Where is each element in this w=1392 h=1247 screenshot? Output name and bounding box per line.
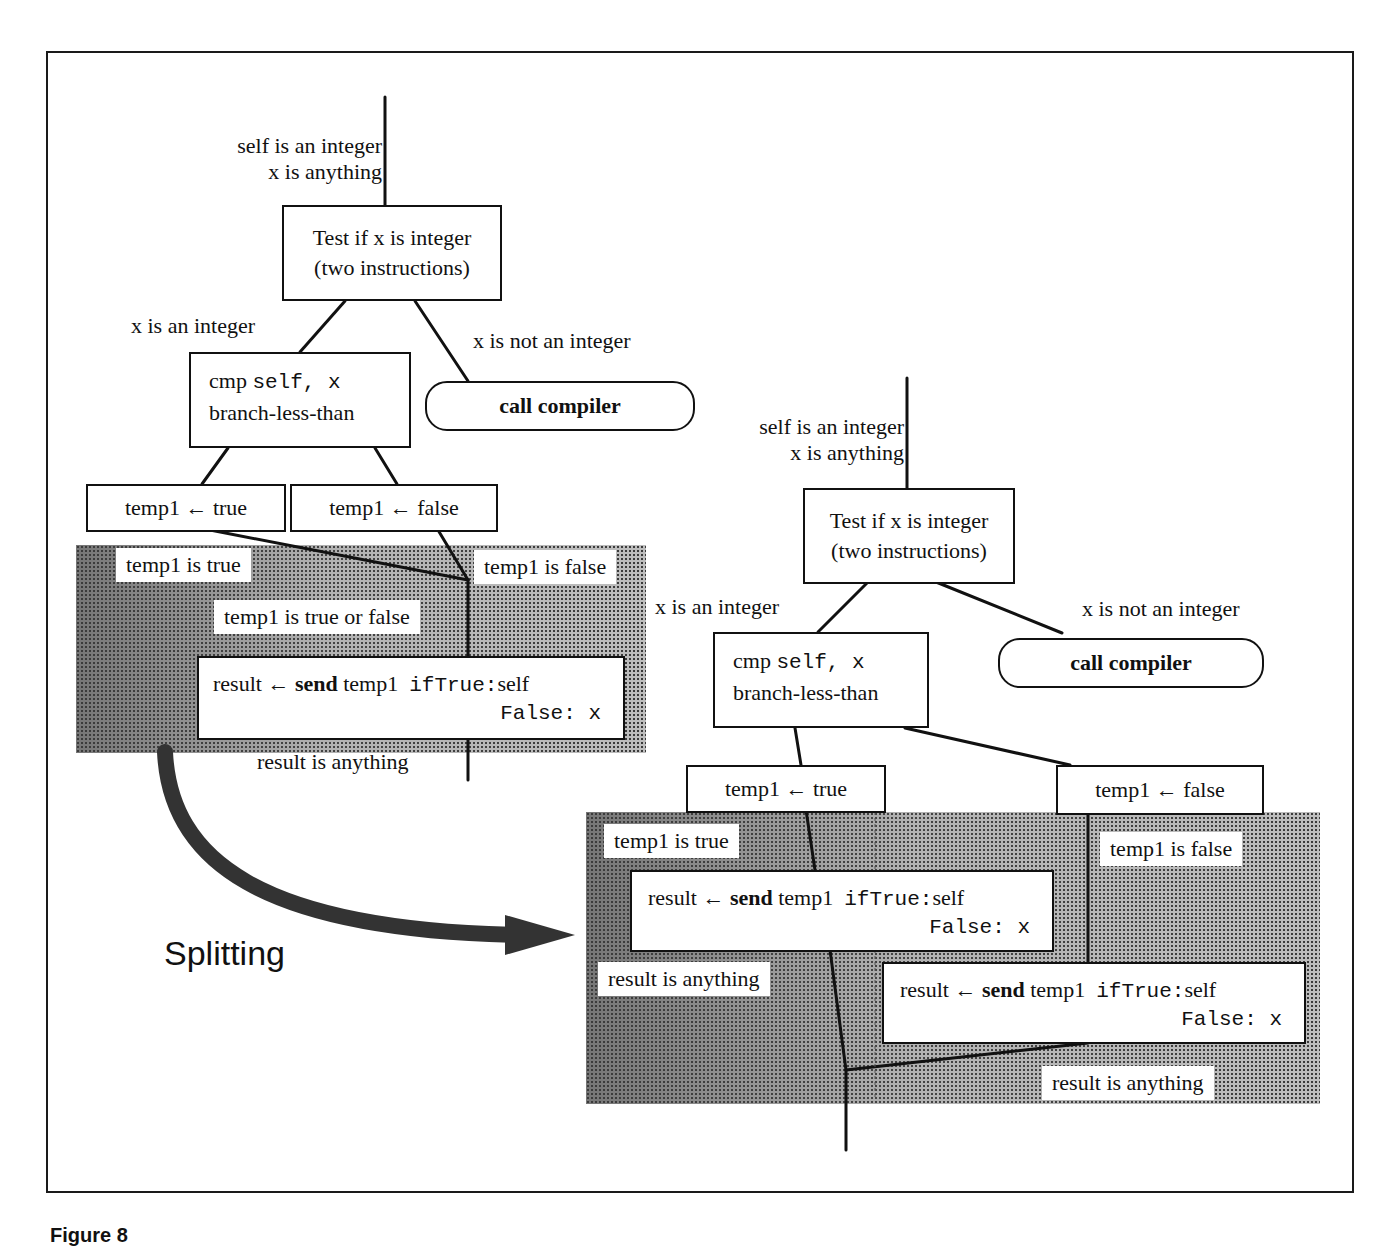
send-selector-false: False: x	[648, 914, 1038, 942]
before-temp-true-label: temp1 is true	[116, 548, 251, 582]
after-branch-no-label: x is not an integer	[1082, 596, 1240, 622]
send-arg-true: self	[932, 885, 964, 910]
entry-condition-self: self is an integer	[700, 414, 904, 440]
splitting-label: Splitting	[164, 934, 285, 973]
test-box-line2: (two instructions)	[805, 536, 1013, 566]
test-box-line1: Test if x is integer	[805, 506, 1013, 536]
send-keyword: send	[730, 885, 773, 910]
cmp-op: cmp	[209, 368, 252, 393]
send-result: result ←	[900, 977, 982, 1002]
send-selector-false: False: x	[213, 700, 609, 728]
test-box-line2: (two instructions)	[284, 253, 500, 283]
figure-caption: Figure 8	[50, 1224, 128, 1247]
after-branch-yes-label: x is an integer	[655, 594, 779, 620]
send-result: result ←	[648, 885, 730, 910]
before-branch-no-label: x is not an integer	[473, 328, 631, 354]
before-send-box: result ← send temp1 ifTrue:self False: x	[197, 656, 625, 740]
before-branch-yes-label: x is an integer	[131, 313, 255, 339]
after-cmp-box: cmp self, x branch-less-than	[713, 632, 929, 728]
send-selector-true: ifTrue:	[1096, 980, 1184, 1003]
after-exit-label-right: result is anything	[1042, 1066, 1214, 1100]
before-temp-true-box: temp1 ← true	[86, 484, 286, 532]
send-keyword: send	[982, 977, 1025, 1002]
before-call-compiler: call compiler	[425, 381, 695, 431]
after-test-box: Test if x is integer (two instructions)	[803, 488, 1015, 584]
before-entry-label: self is an integer x is anything	[180, 133, 382, 185]
send-keyword: send	[295, 671, 338, 696]
after-send-false-box: result ← send temp1 ifTrue:self False: x	[882, 962, 1306, 1044]
before-temp-false-box: temp1 ← false	[290, 484, 498, 532]
before-temp-false-label: temp1 is false	[474, 550, 616, 584]
entry-condition-self: self is an integer	[180, 133, 382, 159]
send-result: result ←	[213, 671, 295, 696]
send-selector-true: ifTrue:	[409, 674, 497, 697]
before-exit-label: result is anything	[257, 749, 409, 775]
after-temp-false-box: temp1 ← false	[1056, 765, 1264, 815]
send-selector-false: False: x	[900, 1006, 1290, 1034]
send-arg-true: self	[1184, 977, 1216, 1002]
cmp-branch: branch-less-than	[209, 398, 409, 428]
send-receiver: temp1	[773, 885, 845, 910]
send-arg-true: self	[497, 671, 529, 696]
after-temp-true-box: temp1 ← true	[686, 765, 886, 813]
after-call-compiler: call compiler	[998, 638, 1264, 688]
before-merge-label: temp1 is true or false	[214, 600, 420, 634]
cmp-op: cmp	[733, 648, 776, 673]
cmp-args: self, x	[252, 371, 340, 394]
before-test-box: Test if x is integer (two instructions)	[282, 205, 502, 301]
after-entry-label: self is an integer x is anything	[700, 414, 904, 466]
after-temp-false-label: temp1 is false	[1100, 832, 1242, 866]
splitting-arrow-icon	[165, 752, 575, 955]
send-receiver: temp1	[338, 671, 410, 696]
entry-condition-x: x is anything	[700, 440, 904, 466]
cmp-args: self, x	[776, 651, 864, 674]
send-receiver: temp1	[1025, 977, 1097, 1002]
test-box-line1: Test if x is integer	[284, 223, 500, 253]
cmp-branch: branch-less-than	[733, 678, 927, 708]
after-exit-label-left: result is anything	[598, 962, 770, 996]
entry-condition-x: x is anything	[180, 159, 382, 185]
before-cmp-box: cmp self, x branch-less-than	[189, 352, 411, 448]
after-send-true-box: result ← send temp1 ifTrue:self False: x	[630, 870, 1054, 952]
after-temp-true-label: temp1 is true	[604, 824, 739, 858]
send-selector-true: ifTrue:	[844, 888, 932, 911]
